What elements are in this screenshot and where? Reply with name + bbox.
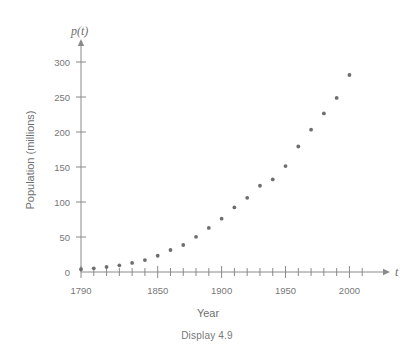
- y-axis-tick-label: 150: [54, 162, 70, 173]
- data-point: [284, 164, 288, 168]
- data-point: [156, 254, 160, 258]
- data-point: [169, 248, 173, 252]
- y-axis-tick-label: 50: [59, 232, 70, 243]
- y-axis-tick-label: 200: [54, 127, 70, 138]
- data-point: [92, 266, 96, 270]
- y-axis-tick-label: 300: [54, 57, 70, 68]
- chart-canvas: tp(t)17901850190019502000050100150200250…: [0, 0, 414, 330]
- population-scatter-figure: tp(t)17901850190019502000050100150200250…: [0, 0, 414, 354]
- data-point: [258, 184, 262, 188]
- data-point: [194, 235, 198, 239]
- x-axis-tick-label: 1850: [147, 285, 168, 296]
- x-axis-title: Year: [197, 307, 220, 319]
- figure-caption: Display 4.9: [0, 330, 414, 341]
- data-point: [348, 73, 352, 77]
- y-axis-tick-label: 100: [54, 197, 70, 208]
- y-axis-tick-label: 0: [65, 267, 70, 278]
- data-point: [296, 145, 300, 149]
- data-point: [207, 226, 211, 230]
- data-point-series: [79, 73, 351, 271]
- x-axis-arrowhead: [383, 269, 390, 275]
- x-axis-tick-label: 2000: [339, 285, 360, 296]
- data-point: [309, 128, 313, 132]
- data-point: [130, 261, 134, 265]
- data-point: [105, 265, 109, 269]
- x-axis-tick-label: 1950: [275, 285, 296, 296]
- data-point: [181, 243, 185, 247]
- x-axis-symbol-label: t: [395, 265, 399, 279]
- x-axis-tick-label: 1900: [211, 285, 232, 296]
- y-axis-arrowhead: [78, 39, 84, 46]
- data-point: [322, 112, 326, 116]
- data-point: [220, 217, 224, 221]
- data-point: [117, 263, 121, 267]
- y-axis-symbol-label: p(t): [70, 24, 88, 38]
- x-axis-tick-label: 1790: [70, 285, 91, 296]
- data-point: [335, 96, 339, 100]
- data-point: [79, 267, 83, 271]
- y-axis-title: Population (millions): [24, 110, 36, 209]
- data-point: [245, 196, 249, 200]
- y-axis-tick-label: 250: [54, 92, 70, 103]
- data-point: [143, 258, 147, 262]
- data-point: [271, 178, 275, 182]
- data-point: [232, 206, 236, 210]
